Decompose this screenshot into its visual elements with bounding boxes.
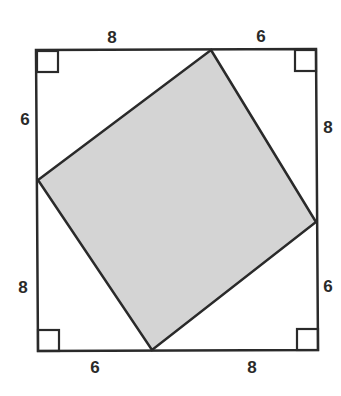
label-top-left-segment: 8	[107, 28, 116, 47]
right-angle-marker-bottom-left	[38, 330, 59, 351]
label-bottom-right-segment: 8	[247, 358, 256, 377]
label-right-lower-segment: 6	[323, 277, 332, 296]
inner-shaded-square	[38, 50, 316, 350]
label-bottom-left-segment: 6	[90, 358, 99, 377]
right-angle-marker-top-left	[37, 51, 58, 72]
label-right-upper-segment: 8	[323, 118, 332, 137]
pythagorean-square-diagram: 8 6 6 8 8 6 6 8	[0, 0, 341, 396]
label-left-upper-segment: 6	[20, 110, 29, 129]
right-angle-marker-bottom-right	[297, 329, 318, 350]
label-left-lower-segment: 8	[18, 278, 27, 297]
label-top-right-segment: 6	[256, 27, 265, 46]
right-angle-marker-top-right	[295, 50, 316, 71]
